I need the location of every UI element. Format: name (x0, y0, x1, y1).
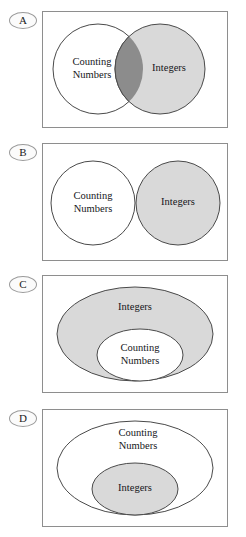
venn-canvas-d: CountingNumbersIntegers (42, 409, 228, 527)
venn-label-counting: Counting (72, 56, 112, 67)
venn-canvas-c: IntegersCountingNumbers (42, 275, 228, 393)
venn-label-integers: Integers (161, 196, 195, 207)
answer-option-panel-d[interactable]: CountingNumbersIntegers (42, 409, 228, 527)
venn-label-integers: Integers (118, 301, 152, 312)
venn-label-numbers: Numbers (121, 355, 160, 366)
venn-canvas-a: CountingNumbersIntegers (42, 11, 228, 128)
venn-label-numbers: Numbers (119, 440, 158, 451)
option-badge-letter: A (19, 15, 27, 26)
answer-option-panel-a[interactable]: CountingNumbersIntegers (42, 11, 228, 128)
venn-label-counting: Counting (118, 427, 158, 438)
option-badge-letter: B (19, 147, 27, 158)
venn-label-integers: Integers (118, 482, 152, 493)
answer-option-panel-c[interactable]: IntegersCountingNumbers (42, 275, 228, 393)
venn-canvas-b: CountingNumbersIntegers (42, 143, 228, 261)
option-badge-c[interactable]: C (9, 276, 37, 293)
venn-label-numbers: Numbers (74, 203, 113, 214)
option-badge-a[interactable]: A (9, 12, 37, 29)
option-badge-letter: D (19, 413, 27, 424)
option-badge-letter: C (19, 279, 27, 290)
answer-option-panel-b[interactable]: CountingNumbersIntegers (42, 143, 228, 261)
venn-label-counting: Counting (120, 342, 160, 353)
option-badge-d[interactable]: D (9, 410, 37, 427)
venn-label-integers: Integers (152, 62, 186, 73)
venn-label-counting: Counting (73, 190, 113, 201)
venn-label-numbers: Numbers (73, 69, 112, 80)
option-badge-b[interactable]: B (9, 144, 37, 161)
